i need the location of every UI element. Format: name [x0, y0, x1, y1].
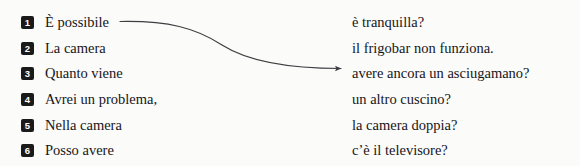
right-item-1[interactable]: è tranquilla? [352, 10, 424, 35]
exercise-row: 5 Nella camera la camera doppia? [0, 113, 580, 138]
left-item-text-3: Quanto viene [45, 61, 123, 86]
left-item-2[interactable]: 2 La camera [21, 36, 106, 61]
left-item-text-4: Avrei un problema, [45, 87, 157, 112]
item-number-badge-2: 2 [21, 42, 34, 55]
left-item-text-6: Posso avere [45, 138, 114, 163]
item-number-badge-1: 1 [21, 16, 34, 29]
right-item-4[interactable]: un altro cuscino? [352, 87, 451, 112]
left-item-4[interactable]: 4 Avrei un problema, [21, 87, 157, 112]
left-item-6[interactable]: 6 Posso avere [21, 138, 114, 163]
item-number-badge-6: 6 [21, 144, 34, 157]
exercise-row: 2 La camera il frigobar non funziona. [0, 36, 580, 61]
exercise-row: 3 Quanto viene avere ancora un asciugama… [0, 61, 580, 86]
item-number-badge-5: 5 [21, 119, 34, 132]
right-item-6[interactable]: c’è il televisore? [352, 138, 448, 163]
item-number-badge-4: 4 [21, 93, 34, 106]
left-item-text-2: La camera [45, 36, 106, 61]
item-number-badge-3: 3 [21, 67, 34, 80]
exercise-row: 1 È possibile è tranquilla? [0, 10, 580, 35]
left-item-3[interactable]: 3 Quanto viene [21, 61, 123, 86]
right-item-2[interactable]: il frigobar non funziona. [352, 36, 494, 61]
left-item-text-1: È possibile [45, 10, 109, 35]
right-item-5[interactable]: la camera doppia? [352, 113, 457, 138]
left-item-text-5: Nella camera [45, 113, 122, 138]
exercise-row: 6 Posso avere c’è il televisore? [0, 138, 580, 163]
exercise-row: 4 Avrei un problema, un altro cuscino? [0, 87, 580, 112]
right-item-3[interactable]: avere ancora un asciugamano? [352, 61, 530, 86]
left-item-5[interactable]: 5 Nella camera [21, 113, 122, 138]
left-item-1[interactable]: 1 È possibile [21, 10, 109, 35]
matching-exercise: 1 È possibile è tranquilla? 2 La camera … [0, 0, 580, 166]
